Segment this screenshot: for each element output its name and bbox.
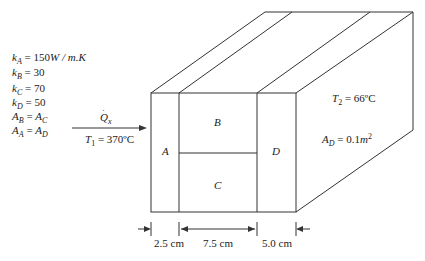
k-d-label: kD = 50 bbox=[12, 97, 45, 108]
area-ad-relation: AA = AD bbox=[12, 125, 48, 136]
composite-wall-drawing bbox=[0, 0, 425, 261]
layer-a-label: A bbox=[162, 146, 169, 157]
area-bc-relation: AB = AC bbox=[12, 111, 47, 122]
dimension-bc: 7.5 cm bbox=[203, 238, 233, 249]
layer-b-label: B bbox=[214, 117, 221, 128]
t2-label: T2 = 66ºC bbox=[332, 93, 376, 104]
k-c-label: kC = 70 bbox=[12, 83, 45, 94]
layer-c-label: C bbox=[214, 180, 221, 191]
layer-d-label: D bbox=[272, 146, 280, 157]
t1-label: T1 = 370ºC bbox=[85, 134, 134, 145]
area-d-label: AD = 0.1m2 bbox=[322, 134, 372, 145]
dimension-d: 5.0 cm bbox=[262, 238, 292, 249]
k-b-label: kB = 30 bbox=[12, 67, 45, 78]
dimension-a: 2.5 cm bbox=[154, 238, 184, 249]
heat-flow-label: Qx · bbox=[100, 112, 112, 123]
k-a-label: kA = 150W / m.K bbox=[12, 52, 86, 63]
